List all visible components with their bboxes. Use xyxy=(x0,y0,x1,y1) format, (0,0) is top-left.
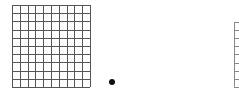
grid-10x10 xyxy=(12,5,91,88)
grid-partial-right xyxy=(234,22,239,88)
dot-marker xyxy=(109,79,115,85)
